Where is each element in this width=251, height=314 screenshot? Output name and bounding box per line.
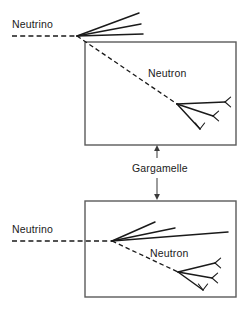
gargamelle-label: Gargamelle (132, 162, 188, 174)
lower-secondary-tracks (178, 258, 221, 290)
secondary-track-1-fork-prong-a (215, 258, 221, 263)
secondary-track-1-fork-prong-a (225, 97, 231, 102)
secondary-track-3-fork-prong-b (203, 284, 208, 290)
secondary-track-2-fork-prong-b (213, 116, 219, 121)
secondary-track-1 (177, 102, 225, 104)
secondary-track-2-fork-prong-a (213, 111, 219, 116)
upper-outgoing-tracks (77, 13, 143, 36)
outgoing-track-1 (77, 13, 139, 36)
gargamelle-annotation: Gargamelle (132, 145, 188, 200)
figure-root: Neutrino Neutron Gargamelle Neutrino Neu… (0, 0, 251, 314)
secondary-track-1-fork-prong-b (225, 102, 231, 107)
secondary-track-3-fork-prong-a (195, 123, 200, 129)
bubble-chamber-diagram: Neutrino Neutron Gargamelle Neutrino Neu… (0, 0, 251, 314)
lower-neutrino-label: Neutrino (12, 223, 53, 235)
secondary-track-2-fork-prong-a (212, 273, 218, 278)
gargamelle-up-arrow-head (154, 145, 160, 151)
upper-neutrino-label: Neutrino (12, 18, 53, 30)
secondary-track-2-fork-prong-b (212, 278, 218, 283)
lower-event-panel: Neutrino Neutron (12, 201, 236, 297)
secondary-track-3-fork-prong-b (200, 123, 205, 129)
upper-neutron-label: Neutron (148, 67, 186, 79)
lower-neutron-label: Neutron (150, 247, 188, 259)
lower-outgoing-tracks (112, 222, 228, 241)
upper-secondary-tracks (177, 97, 231, 129)
gargamelle-down-arrow-head (154, 194, 160, 200)
secondary-track-1 (178, 263, 215, 272)
upper-event-panel: Neutrino Neutron (12, 13, 236, 145)
secondary-track-1-fork-prong-b (215, 263, 221, 268)
